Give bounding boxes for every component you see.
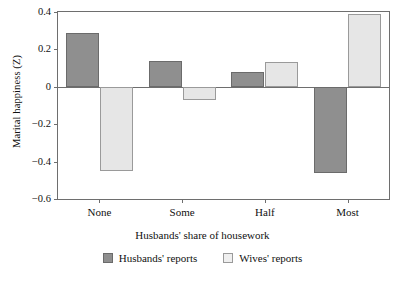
plot-area: 0.40.20−0.2−0.4−0.6NoneSomeHalfMost [57,11,390,200]
bar-none-series1 [100,87,133,171]
legend-item: Husbands' reports [103,252,198,264]
y-axis-tick-label: −0.4 [32,156,51,167]
bar-most-series1 [348,14,381,87]
y-axis-tick [54,199,58,200]
y-axis-tick [54,87,58,88]
bar-some-series1 [183,87,216,100]
y-axis-tick-label: −0.2 [32,119,51,130]
x-axis-tick [348,199,349,203]
y-axis-tick [54,12,58,13]
legend-swatch-icon [103,253,113,263]
y-axis-tick [54,162,58,163]
y-axis-title: Marital happiness (Z) [11,7,22,197]
y-axis-tick-label: 0.2 [38,44,51,55]
y-axis-tick-label: 0.4 [38,7,51,18]
x-axis-tick [265,199,266,203]
bar-half-series0 [231,72,264,87]
y-axis-tick-label: 0 [46,82,51,93]
y-axis-tick [54,124,58,125]
x-axis-title: Husbands' share of housework [0,229,405,241]
bar-some-series0 [149,61,182,87]
x-axis-tick-label: Half [255,207,275,218]
legend-item: Wives' reports [223,252,302,264]
bar-chart-figure: Marital happiness (Z) 0.40.20−0.2−0.4−0.… [0,0,405,281]
chart-legend: Husbands' reportsWives' reports [0,252,405,264]
bar-most-series0 [314,87,347,173]
x-axis-tick-label: Most [336,207,359,218]
y-axis-tick [54,49,58,50]
y-axis-tick-label: −0.6 [32,194,51,205]
x-axis-tick-label: None [87,207,111,218]
legend-item-label: Husbands' reports [119,252,198,264]
x-axis-tick-label: Some [170,207,195,218]
bar-half-series1 [265,62,298,86]
bar-none-series0 [66,33,99,87]
legend-item-label: Wives' reports [239,252,302,264]
x-axis-tick [99,199,100,203]
legend-swatch-icon [223,253,233,263]
x-axis-tick [182,199,183,203]
